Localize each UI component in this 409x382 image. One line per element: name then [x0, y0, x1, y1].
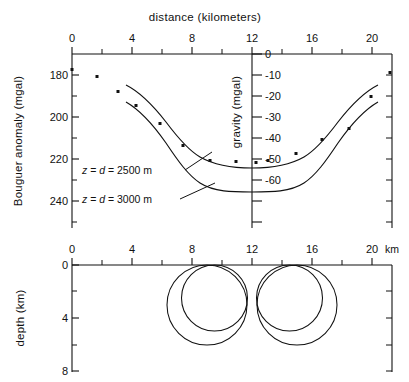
- top-tick-12: 12: [246, 32, 258, 44]
- annotation-2500: z = d = 2500 m: [81, 164, 152, 176]
- left-tick-180: 180: [50, 69, 68, 81]
- left-tick-220: 220: [50, 153, 68, 165]
- grav-tick-m10: -10: [265, 69, 281, 81]
- data-point: [370, 95, 373, 98]
- top-panel: distance (kilometers) 0 4 8 12 16 20: [12, 11, 392, 228]
- top-axis-title: distance (kilometers): [149, 11, 261, 23]
- bot-tick-20: 20: [366, 243, 378, 255]
- data-point: [255, 161, 258, 164]
- top-tick-4: 4: [129, 32, 135, 44]
- left-y-axis-label: Bouguer anomaly (mgal): [12, 76, 24, 206]
- leader-line-3000: [180, 183, 215, 199]
- depth-tick-8: 8: [62, 365, 68, 377]
- left-tick-200: 200: [50, 111, 68, 123]
- bottom-panel-right-ticks: [386, 291, 392, 371]
- top-tick-0: 0: [69, 32, 75, 44]
- bot-tick-16: 16: [306, 243, 318, 255]
- left-small-sphere: [182, 265, 248, 331]
- figure-svg: distance (kilometers) 0 4 8 12 16 20: [0, 0, 409, 382]
- grav-tick-m40: -40: [265, 132, 281, 144]
- grav-tick-m30: -30: [265, 111, 281, 123]
- data-point: [267, 159, 270, 162]
- bot-tick-0: 0: [69, 243, 75, 255]
- data-point: [209, 159, 212, 162]
- annotation-3000-val: = 3000 m: [105, 193, 152, 205]
- right-small-sphere: [257, 265, 323, 331]
- top-tick-16: 16: [306, 32, 318, 44]
- grav-tick-m60: -60: [265, 174, 281, 186]
- model-bodies: [167, 265, 337, 345]
- data-point: [117, 90, 120, 93]
- data-point: [321, 138, 324, 141]
- top-axis-tick-labels: 0 4 8 12 16 20: [69, 32, 378, 44]
- left-tick-240: 240: [50, 195, 68, 207]
- data-point: [389, 71, 392, 74]
- top-panel-right-ticks: [386, 75, 392, 222]
- center-axis-ticks: [252, 54, 262, 222]
- figure-container: distance (kilometers) 0 4 8 12 16 20: [0, 0, 409, 382]
- depth-tick-labels: 0 4 8: [62, 259, 68, 377]
- bot-tick-12: 12: [246, 243, 258, 255]
- data-point: [96, 75, 99, 78]
- left-large-sphere: [167, 265, 247, 345]
- data-point: [135, 104, 138, 107]
- top-axis-minor-ticks: [102, 49, 342, 54]
- depth-major-ticks: [72, 265, 79, 371]
- data-point: [159, 122, 162, 125]
- center-y-axis-label: gravity (mgal): [230, 76, 242, 148]
- annotation-2500-val: = 2500 m: [105, 164, 152, 176]
- grav-tick-0: 0: [265, 48, 271, 60]
- depth-tick-0: 0: [62, 259, 68, 271]
- data-point: [295, 152, 298, 155]
- depth-tick-4: 4: [62, 312, 68, 324]
- grav-tick-m20: -20: [265, 90, 281, 102]
- annotation-2500-eq1: =: [87, 164, 99, 176]
- bottom-axis-unit: km: [385, 243, 399, 255]
- data-point: [182, 144, 185, 147]
- data-point: [71, 68, 74, 71]
- right-large-sphere: [257, 265, 337, 345]
- bottom-axis-tick-labels: 0 4 8 12 16 20: [69, 243, 378, 255]
- data-point: [235, 160, 238, 163]
- left-y-tick-labels: 180 200 220 240: [50, 69, 68, 207]
- bot-tick-8: 8: [189, 243, 195, 255]
- bottom-panel: 0 4 8 12 16 20 km 0 4 8 depth (km): [14, 243, 399, 377]
- annotation-3000: z = d = 3000 m: [81, 193, 152, 205]
- bottom-axis-minor-ticks: [102, 260, 342, 265]
- bot-tick-4: 4: [129, 243, 135, 255]
- depth-axis-label: depth (km): [14, 290, 26, 347]
- top-tick-20: 20: [366, 32, 378, 44]
- annotation-3000-eq1: =: [87, 193, 99, 205]
- data-point: [348, 127, 351, 130]
- top-tick-8: 8: [189, 32, 195, 44]
